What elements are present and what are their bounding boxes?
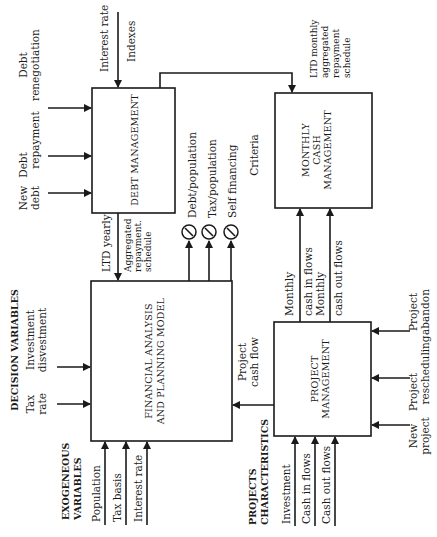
monthly-cash-title-line3: MANAGEMENT xyxy=(322,110,333,190)
financial-model-title-line2: AND PLANNING MODEL xyxy=(155,297,166,425)
self-financing-criterion: Self financing xyxy=(224,144,238,281)
tax-basis-label: Tax basis xyxy=(111,473,123,522)
monthly-cash-management-block: MONTHLY CASH MANAGEMENT xyxy=(275,93,372,208)
ltd-monthly-label-line1: LTD monthly xyxy=(309,19,319,78)
project-decisions: Project abandon Project rescheduling New… xyxy=(372,289,431,455)
monthly-cash-in-label-line1: Monthly xyxy=(283,272,295,316)
debt-management-block: DEBT MANAGEMENT xyxy=(92,88,175,213)
project-rescheduling-label-line2: rescheduling xyxy=(419,335,431,404)
aggregated-label-line3: schedule xyxy=(143,231,153,272)
project-management-title-line1: PROJECT xyxy=(309,355,320,403)
project-management-title-line2: MANAGEMENT xyxy=(320,339,331,419)
project-abandon-label-line2: abandon xyxy=(419,289,431,335)
interest-rate-exo-label: Interest rate xyxy=(132,455,144,522)
interest-rate-indexes-input: Interest rate Indexes xyxy=(98,5,137,87)
debt-repayment-input: Debt repayment xyxy=(17,111,91,178)
monthly-cash-title-line2: CASH xyxy=(311,135,322,165)
debt-renegotiation-input: Debt renegotiation xyxy=(17,29,91,108)
criteria-outputs: Debt/population Tax/population Self fina… xyxy=(182,132,260,281)
debt-renegotiation-label-line2: renegotiation xyxy=(29,29,41,101)
exogeneous-title-line2: VARIABLES xyxy=(72,457,83,521)
new-debt-input: New debt xyxy=(17,185,91,210)
project-management-block: PROJECT MANAGEMENT xyxy=(274,322,371,436)
new-project-label-line1: New xyxy=(407,424,419,448)
projects-characteristics-title-line1: PROJECTS xyxy=(247,468,258,525)
tax-rate-input: Tax rate xyxy=(24,393,90,415)
tax-population-label: Tax/population xyxy=(206,139,218,218)
ltd-monthly-schedule-flow: LTD monthly aggregated repayment schedul… xyxy=(160,19,352,92)
cash-in-char-label: Cash in flows xyxy=(300,453,312,524)
monthly-cash-flows: Monthly cash in flows Monthly cash out f… xyxy=(283,209,344,322)
investment-label-line1: Investment xyxy=(24,309,36,370)
cash-out-char-label: Cash out flows xyxy=(320,446,332,524)
monthly-cash-in-label-line2: cash in flows xyxy=(302,247,314,316)
ltd-monthly-label-line2: aggregated xyxy=(320,25,330,78)
ltd-yearly-flow: LTD yearly Aggregated repayment. schedul… xyxy=(100,213,153,280)
debt-repayment-label-line1: Debt xyxy=(17,151,29,177)
financial-model-title-line1: FINANCIAL ANALYSIS xyxy=(143,303,154,418)
exogeneous-title-line1: EXOGENEOUS xyxy=(60,442,71,520)
indexes-label: Indexes xyxy=(125,21,137,62)
aggregated-label-line2: repayment. xyxy=(133,220,143,272)
monthly-cash-out-label-line2: cash out flows xyxy=(332,240,344,316)
project-cash-flow-label-line2: cash flow xyxy=(248,337,260,387)
project-rescheduling-label-line1: Project xyxy=(407,372,419,411)
monthly-cash-title-line1: MONTHLY xyxy=(300,123,311,177)
decision-variables-title: DECISION VARIABLES xyxy=(9,289,20,411)
interest-rate-label: Interest rate xyxy=(98,5,110,72)
new-debt-label-line2: debt xyxy=(29,185,41,210)
project-cash-flow-label-line1: Project xyxy=(236,342,248,381)
tax-population-criterion: Tax/population xyxy=(202,139,218,281)
population-label: Population xyxy=(90,465,102,522)
investment-char-label: Investment xyxy=(280,463,292,524)
debt-repayment-label-line2: repayment xyxy=(29,111,41,169)
ltd-monthly-arrow xyxy=(160,73,292,92)
debt-population-label: Debt/population xyxy=(186,132,198,218)
decision-variables: DECISION VARIABLES Tax rate Investment d… xyxy=(9,289,90,415)
flow-diagram: DEBT MANAGEMENT MONTHLY CASH MANAGEMENT … xyxy=(0,0,437,537)
investment-label-line2: disvestment xyxy=(36,307,48,372)
debt-population-criterion: Debt/population xyxy=(182,132,198,281)
tax-rate-label-line2: rate xyxy=(36,393,48,415)
self-financing-label: Self financing xyxy=(226,144,238,218)
new-project-label-line2: project xyxy=(419,416,431,454)
ltd-monthly-label-line3: repayment xyxy=(331,29,341,78)
debt-renegotiation-label-line1: Debt xyxy=(17,51,29,77)
investment-disvestment-input: Investment disvestment xyxy=(24,307,90,372)
financial-model-block: FINANCIAL ANALYSIS AND PLANNING MODEL xyxy=(91,281,232,441)
tax-rate-label-line1: Tax xyxy=(24,395,36,413)
aggregated-label-line1: Aggregated xyxy=(123,218,133,273)
new-debt-label-line1: New xyxy=(17,186,29,210)
project-abandon-label-line1: Project xyxy=(407,292,419,331)
exogeneous-variables: EXOGENEOUS VARIABLES Population Tax basi… xyxy=(60,442,147,525)
ltd-yearly-label: LTD yearly xyxy=(100,214,112,272)
projects-characteristics-title-line2: CHARACTERISTICS xyxy=(259,419,270,525)
ltd-monthly-label-line4: schedule xyxy=(342,37,352,78)
project-cash-flow: Project cash flow xyxy=(233,337,274,405)
debt-management-title: DEBT MANAGEMENT xyxy=(129,94,140,206)
monthly-cash-out-label-line1: Monthly xyxy=(314,272,326,316)
criteria-label: Criteria xyxy=(248,134,260,175)
